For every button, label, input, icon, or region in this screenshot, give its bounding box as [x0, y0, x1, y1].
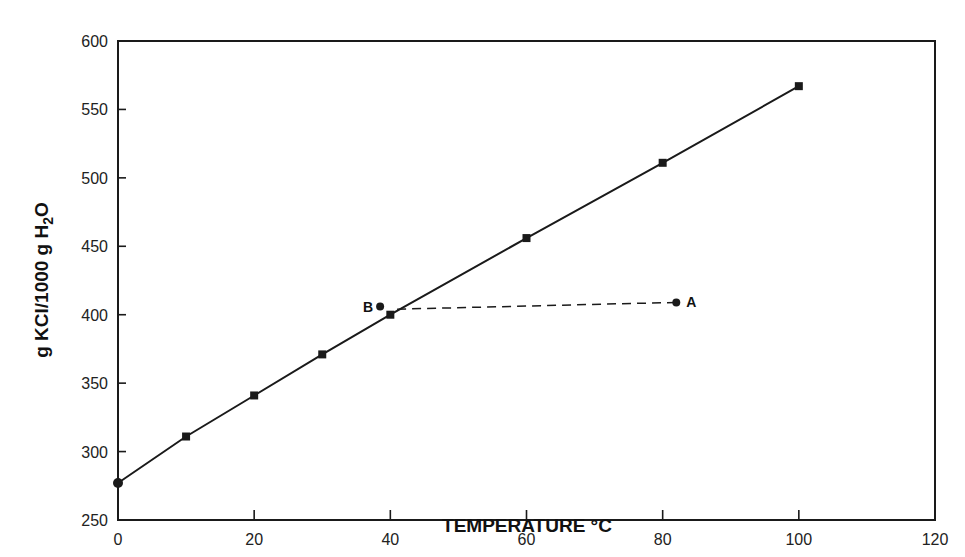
x-axis-title: TEMPERATURE °C [442, 515, 612, 536]
data-marker [795, 82, 803, 90]
data-marker [318, 350, 326, 358]
x-tick-label: 100 [785, 531, 812, 548]
solubility-line [118, 86, 799, 483]
x-tick-label: 20 [245, 531, 263, 548]
point-b-label: B [363, 299, 373, 315]
y-tick-label: 600 [81, 33, 108, 50]
axes [118, 41, 935, 520]
y-tick-label: 550 [81, 101, 108, 118]
data-marker [113, 478, 123, 488]
ticks: 250300350400450500550600020406080100120 [81, 33, 948, 548]
y-tick-label: 300 [81, 444, 108, 461]
y-tick-label: 350 [81, 375, 108, 392]
data-marker [250, 391, 258, 399]
chart: 250300350400450500550600020406080100120 … [0, 0, 965, 557]
y-tick-label: 500 [81, 170, 108, 187]
dashed-line [397, 302, 676, 309]
x-tick-label: 0 [114, 531, 123, 548]
x-tick-label: 120 [922, 531, 949, 548]
data-marker [182, 433, 190, 441]
annotations: AB [363, 294, 696, 314]
y-tick-label: 450 [81, 238, 108, 255]
x-tick-label: 80 [654, 531, 672, 548]
data-marker [523, 234, 531, 242]
y-tick-label: 400 [81, 307, 108, 324]
point-b-marker [376, 303, 384, 311]
data-series [113, 82, 803, 488]
data-marker [659, 159, 667, 167]
plot-frame [118, 41, 935, 520]
point-a-label: A [686, 294, 696, 310]
y-axis-title: g KCl/1000 g H2O [31, 202, 56, 358]
data-marker [386, 311, 394, 319]
x-tick-label: 40 [381, 531, 399, 548]
y-tick-label: 250 [81, 512, 108, 529]
point-a-marker [672, 298, 680, 306]
